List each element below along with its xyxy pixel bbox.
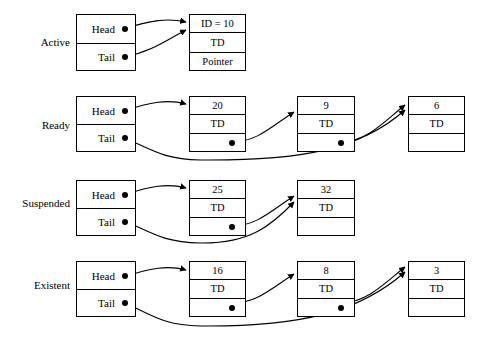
- head-pointer-dot: [122, 273, 128, 279]
- node-pointer-dot: [229, 140, 235, 146]
- node-td-cell: TD: [409, 114, 464, 133]
- head-label: Head: [92, 270, 115, 282]
- node-pointer-dot: [338, 140, 344, 146]
- node-pointer-cell: [298, 217, 354, 235]
- head-pointer-dot: [122, 108, 128, 114]
- head-label: Head: [92, 189, 115, 201]
- node-pointer-cell: [298, 298, 354, 316]
- node-suspended-1[interactable]: 25 TD: [189, 180, 246, 236]
- tail-cell-existent[interactable]: Tail: [77, 289, 135, 316]
- state-label-active: Active: [0, 36, 70, 49]
- node-existent-3[interactable]: 3 TD: [408, 261, 465, 317]
- head-tail-box-suspended: Head Tail: [76, 180, 136, 236]
- node-td-cell: TD: [298, 198, 354, 217]
- head-tail-box-ready: Head Tail: [76, 96, 136, 152]
- node-ready-3[interactable]: 6 TD: [408, 96, 465, 152]
- head-tail-box-active: Head Tail: [76, 14, 136, 71]
- state-label-suspended: Suspended: [0, 197, 70, 210]
- tail-label: Tail: [98, 132, 115, 144]
- node-td-cell: TD: [190, 32, 245, 52]
- tail-label: Tail: [98, 216, 115, 228]
- tail-label: Tail: [98, 297, 115, 309]
- node-pointer-cell: [190, 298, 245, 316]
- state-label-existent: Existent: [0, 279, 70, 292]
- linked-list-diagram: Active Head Tail ID = 10 TD Pointer Read…: [0, 0, 485, 339]
- node-td-cell: TD: [190, 279, 245, 298]
- node-existent-1[interactable]: 16 TD: [189, 261, 246, 317]
- node-td-cell: TD: [190, 114, 245, 133]
- head-tail-box-existent: Head Tail: [76, 261, 136, 317]
- state-label-ready: Ready: [0, 119, 70, 132]
- head-cell-active[interactable]: Head: [77, 15, 135, 43]
- node-pointer-dot: [229, 224, 235, 230]
- node-id-cell: 32: [298, 181, 354, 198]
- node-id-cell: 20: [190, 97, 245, 114]
- node-id-cell: 6: [409, 97, 464, 114]
- node-pointer-dot: [338, 305, 344, 311]
- edge-ready-tail-to-node3: [124, 110, 405, 160]
- tail-pointer-dot: [122, 135, 128, 141]
- head-cell-suspended[interactable]: Head: [77, 181, 135, 208]
- edge-existent-tail-to-node3: [124, 272, 405, 326]
- head-label: Head: [92, 23, 115, 35]
- node-ready-1[interactable]: 20 TD: [189, 96, 246, 152]
- tail-pointer-dot: [122, 54, 128, 60]
- head-cell-existent[interactable]: Head: [77, 262, 135, 289]
- tail-pointer-dot: [122, 300, 128, 306]
- tail-cell-ready[interactable]: Tail: [77, 124, 135, 151]
- head-label: Head: [92, 105, 115, 117]
- node-td-cell: TD: [190, 198, 245, 217]
- node-td-cell: TD: [409, 279, 464, 298]
- node-id-cell: 8: [298, 262, 354, 279]
- node-pointer-cell: [190, 217, 245, 235]
- tail-pointer-dot: [122, 219, 128, 225]
- node-td-cell: TD: [298, 279, 354, 298]
- node-pointer-cell: Pointer: [190, 52, 245, 70]
- head-pointer-dot: [122, 26, 128, 32]
- node-id-cell: 16: [190, 262, 245, 279]
- node-pointer-dot: [229, 305, 235, 311]
- node-id-cell: 3: [409, 262, 464, 279]
- node-pointer-cell: [298, 133, 354, 151]
- node-pointer-cell: [190, 133, 245, 151]
- head-cell-ready[interactable]: Head: [77, 97, 135, 124]
- node-pointer-cell: [409, 298, 464, 316]
- node-id-cell: 25: [190, 181, 245, 198]
- node-td-cell: TD: [298, 114, 354, 133]
- head-pointer-dot: [122, 192, 128, 198]
- node-ready-2[interactable]: 9 TD: [297, 96, 355, 152]
- node-pointer-cell: [409, 133, 464, 151]
- tail-cell-active[interactable]: Tail: [77, 43, 135, 71]
- tail-cell-suspended[interactable]: Tail: [77, 208, 135, 235]
- node-existent-2[interactable]: 8 TD: [297, 261, 355, 317]
- node-id-cell: ID = 10: [190, 15, 245, 32]
- node-id-cell: 9: [298, 97, 354, 114]
- node-active-1[interactable]: ID = 10 TD Pointer: [189, 14, 246, 71]
- tail-label: Tail: [98, 51, 115, 63]
- node-suspended-2[interactable]: 32 TD: [297, 180, 355, 236]
